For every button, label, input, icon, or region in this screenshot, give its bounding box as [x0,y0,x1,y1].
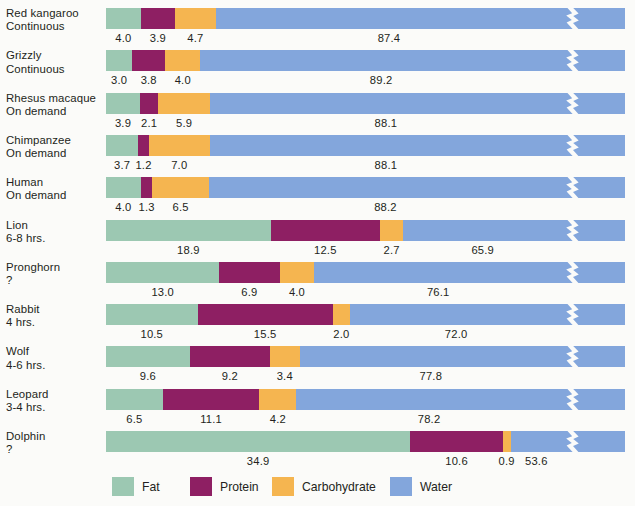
value-label-carbohydrate: 4.0 [159,74,207,87]
value-label-fat: 6.5 [110,413,158,426]
chart-row: Pronghorn?13.06.94.076.1 [0,259,635,304]
bar-segment-protein [190,346,270,367]
chart-row: Leopard3-4 hrs.6.511.14.278.2 [0,386,635,431]
legend-label: Water [420,479,452,495]
bar-segment-fat [106,135,138,156]
row-label: Rabbit4 hrs. [6,303,104,329]
row-feeding-interval: 3-4 hrs. [6,401,104,414]
chart-row: GrizzlyContinuous3.03.84.089.2 [0,47,635,92]
row-animal-name: Red kangaroo [6,7,104,20]
bar-segment-fat [106,262,219,283]
value-label-water: 78.2 [405,413,453,426]
value-label-fat: 10.5 [128,328,176,341]
bar-segment-water [296,389,625,410]
bar-segment-carbohydrate [380,220,404,241]
bar-area [106,174,625,200]
value-label-water: 88.1 [362,159,410,172]
stacked-bar [106,346,625,367]
bar-segment-water [216,8,625,29]
chart-row: HumanOn demand4.01.36.588.2 [0,174,635,219]
row-feeding-interval: 6-8 hrs. [6,232,104,245]
bar-area [106,301,625,327]
stacked-bar [106,8,625,29]
value-label-water: 76.1 [414,286,462,299]
value-label-carbohydrate: 4.2 [254,413,302,426]
value-label-carbohydrate: 7.0 [155,159,203,172]
stacked-bar [106,389,625,410]
bar-segment-carbohydrate [280,262,315,283]
row-animal-name: Chimpanzee [6,134,104,147]
chart-row: Rhesus macaqueOn demand3.92.15.988.1 [0,90,635,135]
row-label: Leopard3-4 hrs. [6,388,104,414]
row-feeding-interval: Continuous [6,20,104,33]
row-feeding-interval: 4-6 hrs. [6,359,104,372]
value-label-water: 53.6 [512,455,560,468]
value-label-carbohydrate: 2.7 [368,244,416,257]
value-label-water: 89.2 [357,74,405,87]
stacked-bar [106,262,625,283]
bar-segment-fat [106,50,132,71]
bar-segment-carbohydrate [333,304,350,325]
bar-segment-protein [198,304,333,325]
row-animal-name: Grizzly [6,49,104,62]
bar-area [106,386,625,412]
bar-segment-water [511,431,625,452]
row-label: Lion6-8 hrs. [6,219,104,245]
value-label-water: 88.2 [361,201,409,214]
bar-segment-water [314,262,625,283]
row-feeding-interval: On demand [6,189,104,202]
bar-area [106,47,625,73]
bar-segment-protein [271,220,380,241]
row-animal-name: Human [6,176,104,189]
legend-label: Protein [220,479,259,495]
value-label-water: 87.4 [365,32,413,45]
row-label: Rhesus macaqueOn demand [6,92,104,118]
value-label-protein: 12.5 [301,244,349,257]
bar-segment-protein [410,431,502,452]
value-label-fat: 9.6 [124,370,172,383]
row-feeding-interval: ? [6,274,104,287]
stacked-bar [106,93,625,114]
bar-segment-protein [163,389,260,410]
row-label: GrizzlyContinuous [6,49,104,75]
value-label-protein: 9.2 [206,370,254,383]
bar-segment-protein [138,135,148,156]
row-animal-name: Lion [6,219,104,232]
value-label-fat: 13.0 [139,286,187,299]
bar-segment-protein [141,8,175,29]
bar-segment-water [350,304,625,325]
stacked-bar [106,220,625,241]
value-label-protein: 11.1 [187,413,235,426]
bar-segment-water [209,177,625,198]
bar-segment-protein [141,177,152,198]
bar-segment-water [300,346,625,367]
value-label-water: 77.8 [407,370,455,383]
bar-segment-fat [106,389,163,410]
bar-segment-fat [106,304,198,325]
chart-row: ChimpanzeeOn demand3.71.27.088.1 [0,132,635,177]
row-animal-name: Leopard [6,388,104,401]
bar-segment-carbohydrate [259,389,296,410]
row-feeding-interval: On demand [6,147,104,160]
bar-segment-fat [106,8,141,29]
bar-segment-carbohydrate [152,177,209,198]
bar-segment-water [200,50,625,71]
chart-row: Dolphin?34.910.60.953.6 [0,428,635,473]
value-label-protein: 10.6 [433,455,481,468]
bar-segment-carbohydrate [175,8,216,29]
bar-area [106,90,625,116]
bar-area [106,343,625,369]
bar-segment-protein [219,262,279,283]
row-label: Red kangarooContinuous [6,7,104,33]
value-label-carbohydrate: 4.0 [273,286,321,299]
legend-swatch-water [390,477,412,496]
chart-row: Wolf4-6 hrs.9.69.23.477.8 [0,343,635,388]
legend-swatch-protein [190,477,212,496]
bar-segment-carbohydrate [158,93,209,114]
row-feeding-interval: On demand [6,105,104,118]
legend-label: Carbohydrate [302,479,376,495]
legend-label: Fat [142,479,160,495]
row-label: Dolphin? [6,430,104,456]
row-animal-name: Rabbit [6,303,104,316]
legend-swatch-carbohydrate [272,477,294,496]
